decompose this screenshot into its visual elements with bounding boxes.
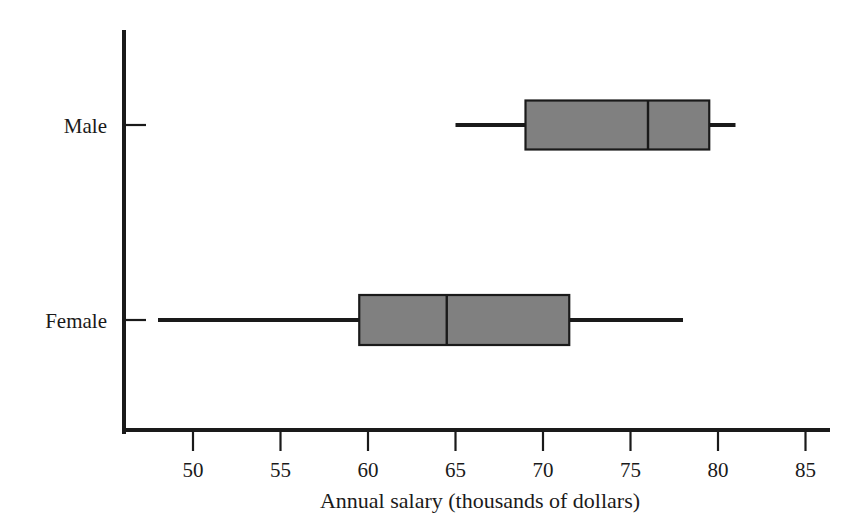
x-tick-label-60: 60	[358, 458, 379, 482]
x-tick-label-75: 75	[620, 458, 641, 482]
x-tick-label-50: 50	[183, 458, 204, 482]
category-label-male: Male	[64, 114, 107, 138]
box-group-female	[158, 295, 683, 345]
box-male	[526, 101, 710, 150]
box-group-male	[456, 101, 736, 150]
x-tick-label-65: 65	[445, 458, 466, 482]
box-plot-figure: Male Female 50 55 60 65 70 75 80 85 Annu…	[0, 0, 862, 522]
category-label-female: Female	[45, 309, 107, 333]
x-axis-title: Annual salary (thousands of dollars)	[320, 488, 640, 513]
box-female	[359, 295, 569, 345]
box-plot-svg: Male Female 50 55 60 65 70 75 80 85 Annu…	[0, 0, 862, 522]
x-tick-label-80: 80	[708, 458, 729, 482]
x-tick-label-70: 70	[533, 458, 554, 482]
x-tick-label-85: 85	[795, 458, 816, 482]
x-tick-label-55: 55	[270, 458, 291, 482]
